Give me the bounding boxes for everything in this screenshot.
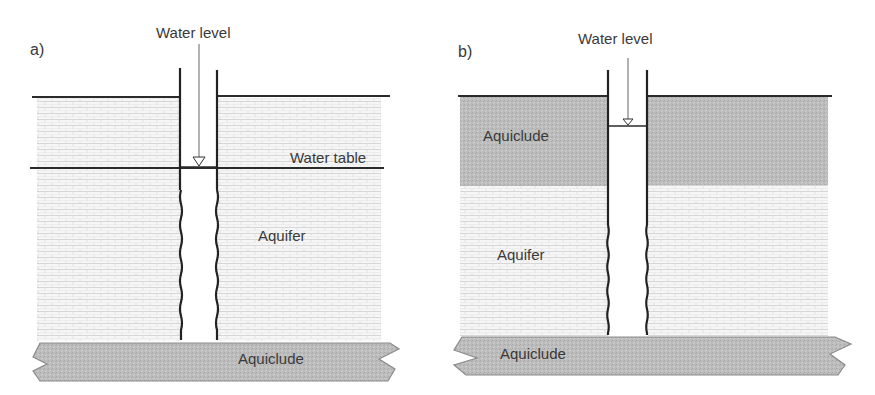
panel-a: a) Water table Water level Aquifer Aquic… <box>30 24 399 381</box>
water-level-label: Water level <box>156 24 230 41</box>
panel-a-label: a) <box>30 41 44 58</box>
water-level-triangle-icon <box>193 157 205 166</box>
water-table-label: Water table <box>290 149 366 166</box>
aquifer-right-region <box>648 185 828 336</box>
aquifer-label: Aquifer <box>497 246 545 263</box>
aquifer-left-region <box>37 98 181 341</box>
aquifer-label: Aquifer <box>258 227 306 244</box>
panel-b-label: b) <box>458 43 472 60</box>
water-level-label: Water level <box>578 30 652 47</box>
well-screen-right <box>646 225 648 335</box>
aquiclude-bottom-label: Aquiclude <box>238 350 304 367</box>
aquiclude-bottom-layer <box>33 343 399 381</box>
water-level-triangle-icon <box>623 119 633 125</box>
panel-b: b) Water level Aquiclude Aquifer Aquiclu… <box>454 30 851 375</box>
aquiclude-bottom-label: Aquiclude <box>500 345 566 362</box>
aquiclude-top-label: Aquiclude <box>483 127 549 144</box>
aquiclude-top-right-region <box>648 97 828 185</box>
aquifer-diagram: a) Water table Water level Aquifer Aquic… <box>0 0 875 395</box>
aquifer-right-region <box>217 98 381 341</box>
